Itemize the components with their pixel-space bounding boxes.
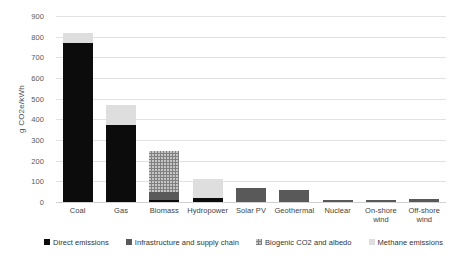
x-tick-label-gas: Gas [100,206,142,234]
x-tick-label-biomass: Biomass [143,206,185,234]
legend-swatch-icon [256,239,262,245]
bar-column-nuclear[interactable] [321,16,355,202]
bar-stack [323,200,353,202]
x-tick-label-off-shore-wind: Off-shore wind [403,206,445,234]
bar-stack [279,190,309,202]
bar-segment-direct-emissions [193,198,223,202]
bar-stack [106,105,136,202]
y-tick-label-0: 0 [40,198,44,207]
x-tick-label-nuclear: Nuclear [317,206,359,234]
y-tick-label-400: 400 [31,115,44,124]
emissions-bar-chart: g CO2e/kWh 9008007006005004003002001000 … [0,0,458,258]
bar-column-gas[interactable] [104,16,138,202]
bar-column-coal[interactable] [61,16,95,202]
bar-stack [63,33,93,202]
bar-segment-biogenic-co2-and-albedo [149,151,179,191]
bar-segment-direct-emissions [149,200,179,202]
bar-stack [149,151,179,202]
bar-column-on-shore-wind[interactable] [364,16,398,202]
bar-stack [366,200,396,202]
legend-item-biogenic-co2-and-albedo[interactable]: Biogenic CO2 and albedo [256,238,352,247]
bar-column-biomass[interactable] [147,16,181,202]
bar-segment-infrastructure-and-supply-chain [366,200,396,202]
bar-segment-infrastructure-and-supply-chain [279,190,309,202]
bar-stack [409,199,439,202]
legend-label: Infrastructure and supply chain [135,238,239,247]
y-tick-label-300: 300 [31,136,44,145]
bar-segment-direct-emissions [106,125,136,203]
y-tick-label-100: 100 [31,177,44,186]
y-tick-label-200: 200 [31,156,44,165]
y-tick-label-700: 700 [31,53,44,62]
bar-column-geothermal[interactable] [277,16,311,202]
bar-segment-infrastructure-and-supply-chain [236,188,266,202]
bar-group [56,16,446,202]
bar-segment-infrastructure-and-supply-chain [323,200,353,202]
bar-segment-infrastructure-and-supply-chain [149,192,179,200]
x-tick-label-coal: Coal [57,206,99,234]
x-tick-label-on-shore-wind: On-shore wind [360,206,402,234]
x-tick-label-geothermal: Geothermal [273,206,315,234]
bar-column-hydropower[interactable] [191,16,225,202]
bar-segment-direct-emissions [63,43,93,202]
legend-label: Direct emissions [53,238,109,247]
x-tick-label-hydropower: Hydropower [187,206,229,234]
y-tick-label-600: 600 [31,74,44,83]
chart-legend: Direct emissionsInfrastructure and suppl… [44,235,444,249]
bar-segment-infrastructure-and-supply-chain [409,199,439,202]
y-tick-label-800: 800 [31,32,44,41]
y-tick-label-500: 500 [31,94,44,103]
legend-item-methane-emissions[interactable]: Methane emissions [369,238,443,247]
bar-segment-methane-emissions [63,33,93,43]
bar-column-solar-pv[interactable] [234,16,268,202]
x-axis-labels: CoalGasBiomassHydropowerSolar PVGeotherm… [56,206,446,234]
x-tick-label-solar-pv: Solar PV [230,206,272,234]
legend-swatch-icon [126,239,132,245]
legend-item-direct-emissions[interactable]: Direct emissions [44,238,109,247]
bar-column-off-shore-wind[interactable] [407,16,441,202]
legend-swatch-icon [369,239,375,245]
y-axis-ticks: 9008007006005004003002001000 [0,16,50,202]
legend-item-infrastructure-and-supply-chain[interactable]: Infrastructure and supply chain [126,238,239,247]
plot-area [56,16,446,202]
bar-stack [236,188,266,202]
bar-segment-methane-emissions [193,179,223,198]
legend-label: Methane emissions [378,238,443,247]
bar-segment-methane-emissions [106,105,136,125]
legend-label: Biogenic CO2 and albedo [265,238,352,247]
bar-stack [193,179,223,202]
y-tick-label-900: 900 [31,12,44,21]
gridline-0 [56,202,446,203]
legend-swatch-icon [44,239,50,245]
